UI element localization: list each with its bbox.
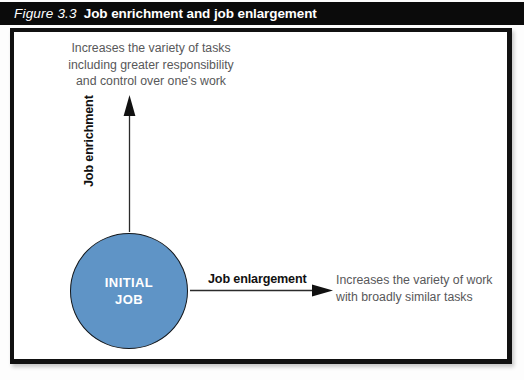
diagram-frame: Increases the variety of tasks including… [10, 28, 512, 364]
diagram-canvas: Increases the variety of tasks including… [14, 32, 507, 359]
initial-job-node: INITIAL JOB [70, 233, 188, 349]
horizontal-arrow-icon [190, 285, 333, 297]
diagram-canvas-background: Increases the variety of tasks including… [14, 32, 507, 359]
job-enrichment-label: Job enrichment [82, 95, 96, 187]
job-enrichment-description: Increases the variety of tasks including… [32, 40, 270, 90]
vertical-arrow-icon [124, 95, 136, 232]
job-enlargement-label: Job enlargement [208, 272, 307, 286]
job-enlargement-description: Increases the variety of work with broad… [336, 272, 507, 305]
initial-job-label: INITIAL JOB [105, 274, 153, 308]
figure-title-bar: Figure 3.3Job enrichment and job enlarge… [0, 2, 524, 25]
figure-title-text: Figure 3.3Job enrichment and job enlarge… [14, 5, 317, 22]
figure-number: Figure 3.3 [14, 6, 77, 21]
figure-caption: Job enrichment and job enlargement [84, 6, 317, 21]
figure-container: Figure 3.3Job enrichment and job enlarge… [0, 0, 524, 380]
